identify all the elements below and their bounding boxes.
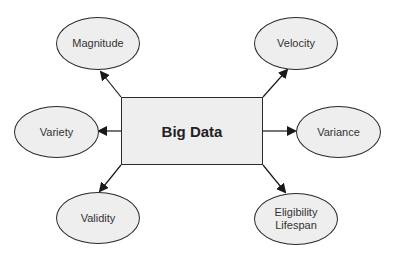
arrow-to-velocity — [263, 70, 287, 97]
node-label: Eligibility Lifespan — [275, 206, 318, 232]
node-variety: Variety — [14, 106, 99, 158]
node-label: Magnitude — [72, 37, 123, 50]
center-node-big-data: Big Data — [121, 97, 263, 165]
node-label: Variety — [40, 126, 73, 139]
diagram-canvas: Magnitude Velocity Variety Variance Vali… — [0, 0, 396, 255]
node-label: Validity — [81, 212, 116, 225]
arrow-to-magnitude — [101, 72, 121, 97]
node-eligibility-lifespan: Eligibility Lifespan — [254, 193, 338, 245]
arrow-to-eligibility-lifespan — [263, 165, 285, 192]
node-velocity: Velocity — [254, 17, 338, 70]
center-label: Big Data — [162, 123, 223, 140]
node-validity: Validity — [56, 192, 140, 244]
node-variance: Variance — [296, 106, 381, 158]
node-magnitude: Magnitude — [56, 17, 140, 70]
node-label: Velocity — [277, 37, 315, 50]
arrow-to-validity — [100, 165, 121, 191]
node-label: Variance — [317, 126, 360, 139]
